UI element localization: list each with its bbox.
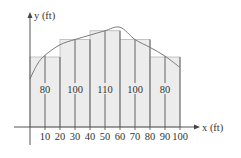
x-tick-label-80: 80 (145, 131, 156, 142)
x-tick-label-50: 50 (100, 131, 111, 142)
x-tick-label-100: 100 (172, 131, 188, 142)
bar-value-label-3: 100 (127, 84, 143, 95)
x-tick-labels-group: 102030405060708090100 (40, 131, 188, 142)
x-tick-label-10: 10 (40, 131, 51, 142)
bar-value-label-2: 110 (97, 84, 112, 95)
bar-value-label-0: 80 (40, 84, 51, 95)
x-axis-arrow-icon (194, 125, 200, 130)
x-tick-label-40: 40 (85, 131, 96, 142)
x-tick-label-20: 20 (55, 131, 66, 142)
x-tick-label-90: 90 (160, 131, 171, 142)
bar-value-label-4: 80 (160, 84, 171, 95)
bar-value-label-1: 100 (67, 84, 83, 95)
y-axis-label: y (ft) (34, 10, 56, 22)
x-tick-label-70: 70 (130, 131, 141, 142)
plot-canvas: 8010011010080 x (ft) y (ft) 102030405060… (0, 0, 241, 158)
x-axis-label: x (ft) (202, 122, 224, 134)
y-axis-arrow-icon (28, 12, 33, 18)
x-tick-label-60: 60 (115, 131, 126, 142)
x-tick-label-30: 30 (70, 131, 81, 142)
riemann-sum-diagram: 8010011010080 x (ft) y (ft) 102030405060… (0, 0, 241, 158)
